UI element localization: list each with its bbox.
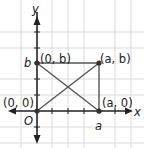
x-axis-label: x — [133, 105, 141, 119]
point-label-top-left: (0, b) — [40, 52, 71, 66]
coordinate-plane: y x O a b (0, 0) (0, b) (a, b) (a, 0) — [0, 0, 144, 148]
y-arrow-up-icon — [34, 16, 41, 25]
y-axis-label: y — [31, 2, 39, 16]
point-label-top-right: (a, b) — [100, 52, 131, 66]
point-label-bottom-right: (a, 0) — [102, 96, 133, 110]
y-tick-label-b: b — [24, 56, 31, 70]
x-tick-label-a: a — [95, 119, 102, 133]
point-bottom-right — [96, 108, 101, 113]
point-origin — [34, 108, 39, 113]
origin-label: O — [24, 114, 33, 128]
point-top-left — [34, 60, 39, 65]
grid — [0, 0, 144, 148]
point-label-origin: (0, 0) — [3, 96, 34, 110]
